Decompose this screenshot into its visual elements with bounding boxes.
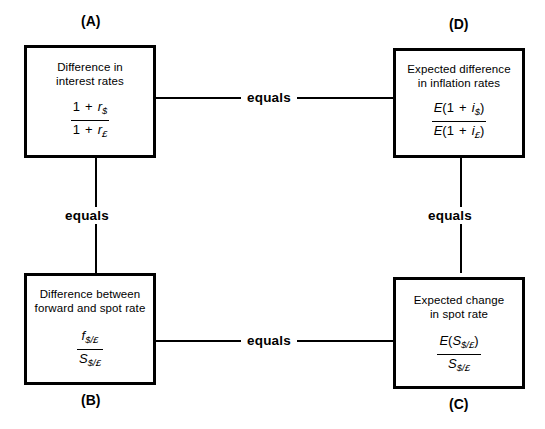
node-d-denominator: E(1 + i£) — [432, 122, 487, 143]
connector-label-d-c: equals — [422, 207, 478, 224]
node-box-c[interactable]: Expected change in spot rate E(S$/£) S$/… — [393, 277, 525, 389]
node-c-denominator: S$/£ — [437, 355, 480, 376]
connector-label-b-c: equals — [241, 332, 297, 349]
connector-label-a-b: equals — [59, 207, 115, 224]
node-box-d[interactable]: Expected difference in inflation rates E… — [393, 48, 525, 158]
panel-letter-c: (C) — [449, 396, 468, 412]
node-b-caption: Difference between forward and spot rate — [35, 287, 146, 315]
node-box-a[interactable]: Difference in interest rates 1 + r$ 1 + … — [24, 45, 156, 158]
connector-label-a-d: equals — [241, 89, 297, 106]
node-a-caption: Difference in interest rates — [56, 60, 124, 88]
node-d-numerator: E(1 + i$) — [432, 100, 487, 122]
node-box-b[interactable]: Difference between forward and spot rate… — [24, 273, 156, 385]
node-b-formula: f$/£ S$/£ — [77, 328, 103, 370]
node-b-numerator: f$/£ — [77, 328, 103, 350]
node-c-caption: Expected change in spot rate — [414, 293, 504, 321]
node-a-denominator: 1 + r£ — [71, 121, 110, 142]
diagram-canvas: equals equals equals equals (A) (D) (B) … — [0, 0, 545, 429]
node-d-caption: Expected difference in inflation rates — [407, 62, 510, 90]
panel-letter-a: (A) — [81, 13, 100, 29]
panel-letter-d: (D) — [449, 16, 468, 32]
panel-letter-b: (B) — [81, 392, 100, 408]
node-a-formula: 1 + r$ 1 + r£ — [71, 99, 110, 141]
node-a-numerator: 1 + r$ — [71, 99, 110, 121]
node-c-numerator: E(S$/£) — [437, 333, 480, 355]
node-b-denominator: S$/£ — [77, 350, 103, 371]
node-c-formula: E(S$/£) S$/£ — [437, 333, 480, 375]
node-d-formula: E(1 + i$) E(1 + i£) — [432, 100, 487, 142]
